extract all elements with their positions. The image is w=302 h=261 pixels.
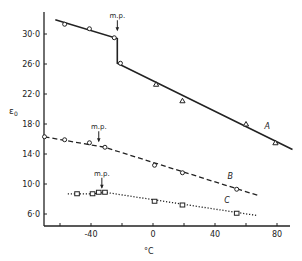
dielectric-constant-chart: 6·010·014·018·022·026·030·0-4004080 Am.p… bbox=[0, 0, 302, 261]
y-tick-label: 22·0 bbox=[22, 90, 40, 99]
circle-marker bbox=[63, 22, 67, 26]
square-marker bbox=[96, 190, 101, 194]
circle-marker bbox=[180, 171, 184, 175]
y-tick-label: 26·0 bbox=[22, 60, 40, 69]
x-tick-label: -40 bbox=[84, 230, 97, 239]
x-tick-label: 40 bbox=[210, 230, 220, 239]
y-tick-label: 18·0 bbox=[22, 120, 40, 129]
x-tick-label: 0 bbox=[150, 230, 155, 239]
melting-point-label: m.p. bbox=[91, 123, 107, 131]
arrow-head-icon bbox=[97, 138, 101, 142]
series-line bbox=[45, 137, 260, 196]
y-tick-label: 6·0 bbox=[27, 210, 40, 219]
circle-marker bbox=[112, 36, 116, 40]
series-b: Bm.p. bbox=[43, 123, 260, 196]
y-tick-label: 14·0 bbox=[22, 150, 40, 159]
circle-marker bbox=[87, 27, 91, 31]
circle-marker bbox=[103, 145, 107, 149]
arrow-head-icon bbox=[100, 185, 104, 189]
series-label: C bbox=[224, 196, 230, 205]
x-axis-title: °C bbox=[144, 247, 154, 256]
circle-marker bbox=[153, 163, 157, 167]
square-marker bbox=[75, 192, 80, 196]
series-group: Am.p.Bm.p.Cm.p. bbox=[43, 12, 293, 215]
circle-marker bbox=[63, 138, 67, 142]
series-label: A bbox=[264, 122, 270, 131]
axes: 6·010·014·018·022·026·030·0-4004080 bbox=[22, 12, 290, 239]
circle-marker bbox=[235, 187, 239, 191]
circle-marker bbox=[118, 61, 122, 65]
triangle-marker bbox=[180, 98, 185, 103]
circle-marker bbox=[43, 135, 47, 139]
square-marker bbox=[103, 190, 108, 194]
y-axis-title: ε0 bbox=[9, 106, 18, 117]
series-label: B bbox=[227, 172, 233, 181]
square-marker bbox=[180, 203, 185, 207]
melting-point-label: m.p. bbox=[94, 170, 110, 178]
square-marker bbox=[90, 192, 95, 196]
melting-point-label: m.p. bbox=[109, 12, 125, 20]
triangle-marker bbox=[243, 122, 248, 127]
square-marker bbox=[234, 211, 239, 215]
square-marker bbox=[152, 199, 157, 203]
y-tick-label: 30·0 bbox=[22, 30, 40, 39]
y-tick-label: 10·0 bbox=[22, 180, 40, 189]
circle-marker bbox=[87, 141, 91, 145]
arrow-head-icon bbox=[116, 27, 120, 31]
x-tick-label: 80 bbox=[272, 230, 282, 239]
